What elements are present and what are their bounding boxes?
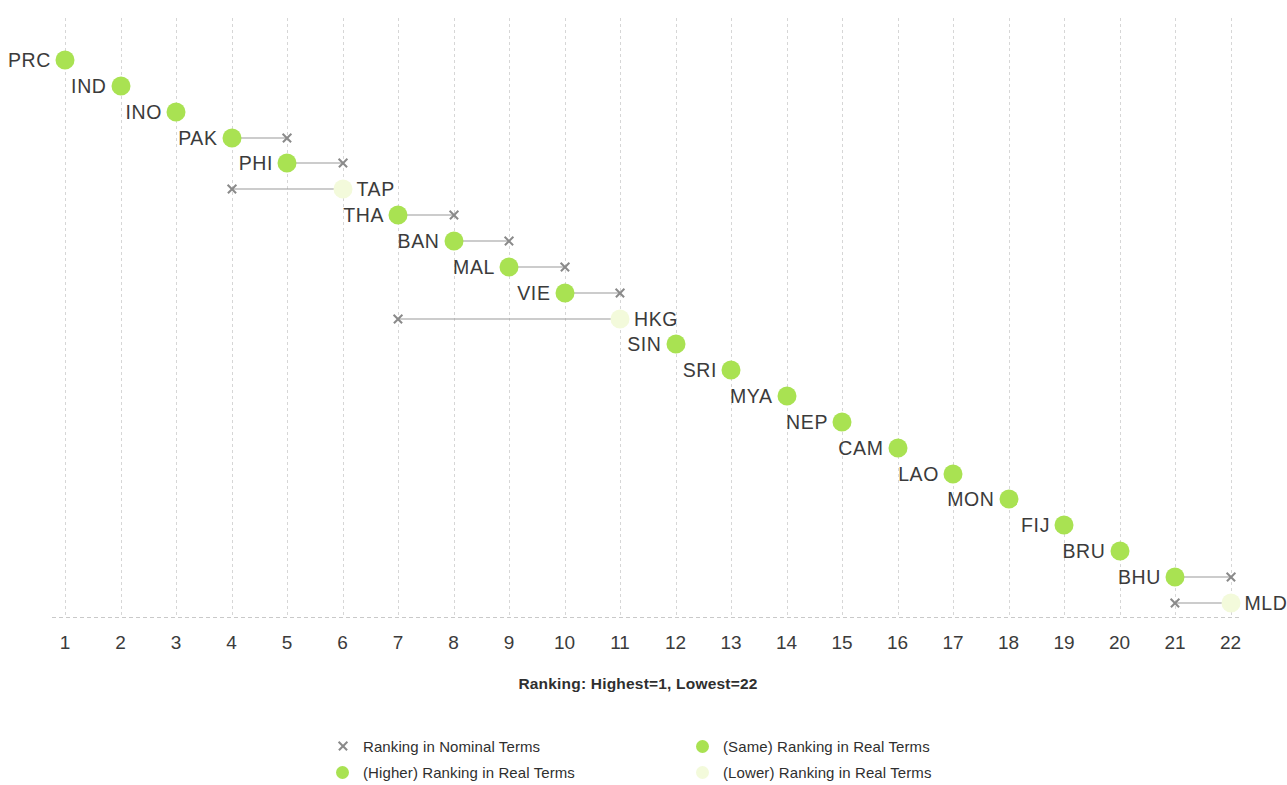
real-rank-marker — [611, 309, 630, 328]
x-tick-3: 3 — [171, 632, 182, 654]
real-rank-marker — [1110, 542, 1129, 561]
nominal-rank-marker — [502, 234, 516, 248]
real-rank-marker — [1055, 516, 1074, 535]
real-rank-marker — [167, 102, 186, 121]
legend-label: (Higher) Ranking in Real Terms — [363, 764, 575, 781]
data-row: MYA — [0, 383, 1276, 409]
data-row: SRI — [0, 357, 1276, 383]
economy-label: MAL — [453, 255, 495, 278]
x-tick-5: 5 — [282, 632, 293, 654]
x-marker-icon — [335, 738, 351, 754]
plot-area: PRCINDINOPAKPHITAPTHABANMALVIEHKGSINSRIM… — [0, 0, 1276, 618]
economy-label: IND — [71, 74, 106, 97]
nominal-rank-marker — [1168, 596, 1182, 610]
x-tick-4: 4 — [226, 632, 237, 654]
x-axis-title: Ranking: Highest=1, Lowest=22 — [0, 675, 1276, 693]
data-row: VIE — [0, 280, 1276, 306]
data-row: SIN — [0, 331, 1276, 357]
real-rank-marker — [555, 283, 574, 302]
economy-label: TAP — [357, 178, 395, 201]
x-tick-12: 12 — [665, 632, 686, 654]
economy-label: INO — [126, 100, 162, 123]
economy-label: PHI — [239, 152, 273, 175]
data-row: MAL — [0, 254, 1276, 280]
real-rank-marker — [56, 51, 75, 70]
real-rank-marker — [722, 361, 741, 380]
connector-line — [398, 318, 620, 319]
x-tick-7: 7 — [393, 632, 404, 654]
legend-label: (Lower) Ranking in Real Terms — [723, 764, 932, 781]
nominal-rank-marker — [391, 312, 405, 326]
real-rank-marker — [500, 257, 519, 276]
x-tick-21: 21 — [1164, 632, 1185, 654]
x-tick-6: 6 — [337, 632, 348, 654]
x-axis-line — [52, 617, 1242, 618]
data-row: CAM — [0, 435, 1276, 461]
nominal-rank-marker — [613, 286, 627, 300]
data-row: LAO — [0, 461, 1276, 487]
economy-label: THA — [343, 204, 384, 227]
data-row: MON — [0, 486, 1276, 512]
x-tick-14: 14 — [776, 632, 797, 654]
data-row: HKG — [0, 306, 1276, 332]
chart-legend: Ranking in Nominal Terms(Same) Ranking i… — [335, 733, 1035, 785]
economy-label: BRU — [1063, 540, 1106, 563]
economy-label: LAO — [898, 462, 939, 485]
economy-label: HKG — [634, 307, 678, 330]
x-tick-18: 18 — [998, 632, 1019, 654]
nominal-rank-marker — [558, 260, 572, 274]
data-row: PHI — [0, 150, 1276, 176]
nominal-rank-marker — [280, 131, 294, 145]
real-rank-marker — [1166, 568, 1185, 587]
legend-label: Ranking in Nominal Terms — [363, 738, 540, 755]
economy-label: MON — [947, 488, 994, 511]
economy-label: PRC — [8, 49, 51, 72]
x-tick-20: 20 — [1109, 632, 1130, 654]
legend-label: (Same) Ranking in Real Terms — [723, 738, 930, 755]
real-rank-marker — [222, 128, 241, 147]
dot-marker-icon — [335, 764, 351, 780]
data-row: PAK — [0, 125, 1276, 151]
economy-label: SRI — [683, 359, 717, 382]
nominal-rank-marker — [225, 182, 239, 196]
x-tick-2: 2 — [115, 632, 126, 654]
real-rank-marker — [1221, 593, 1240, 612]
nominal-rank-marker — [1224, 570, 1238, 584]
economy-label: BHU — [1118, 566, 1161, 589]
economy-label: VIE — [517, 281, 550, 304]
economy-label: BAN — [398, 229, 440, 252]
dot-marker-icon — [695, 764, 711, 780]
data-row: BRU — [0, 538, 1276, 564]
economy-label: MLD — [1245, 591, 1287, 614]
x-tick-22: 22 — [1220, 632, 1241, 654]
legend-item-same: (Same) Ranking in Real Terms — [695, 733, 1035, 759]
dot-marker-icon — [695, 738, 711, 754]
data-row: MLD — [0, 590, 1276, 616]
x-tick-13: 13 — [720, 632, 741, 654]
real-rank-marker — [944, 464, 963, 483]
legend-item-higher: (Higher) Ranking in Real Terms — [335, 759, 675, 785]
real-rank-marker — [278, 154, 297, 173]
x-tick-15: 15 — [831, 632, 852, 654]
economy-label: CAM — [838, 436, 883, 459]
data-row: INO — [0, 99, 1276, 125]
economy-label: FIJ — [1021, 514, 1050, 537]
nominal-rank-marker — [336, 156, 350, 170]
data-row: PRC — [0, 47, 1276, 73]
real-rank-marker — [389, 206, 408, 225]
economy-label: NEP — [786, 410, 828, 433]
real-rank-marker — [111, 76, 130, 95]
x-tick-8: 8 — [448, 632, 459, 654]
data-row: FIJ — [0, 512, 1276, 538]
economy-label: SIN — [627, 333, 661, 356]
economy-label: MYA — [730, 385, 773, 408]
legend-item-nominal: Ranking in Nominal Terms — [335, 733, 675, 759]
connector-line — [232, 189, 343, 190]
legend-item-lower: (Lower) Ranking in Real Terms — [695, 759, 1035, 785]
data-row: BAN — [0, 228, 1276, 254]
x-tick-1: 1 — [60, 632, 71, 654]
x-tick-11: 11 — [610, 632, 630, 654]
x-tick-19: 19 — [1053, 632, 1074, 654]
x-tick-16: 16 — [887, 632, 908, 654]
